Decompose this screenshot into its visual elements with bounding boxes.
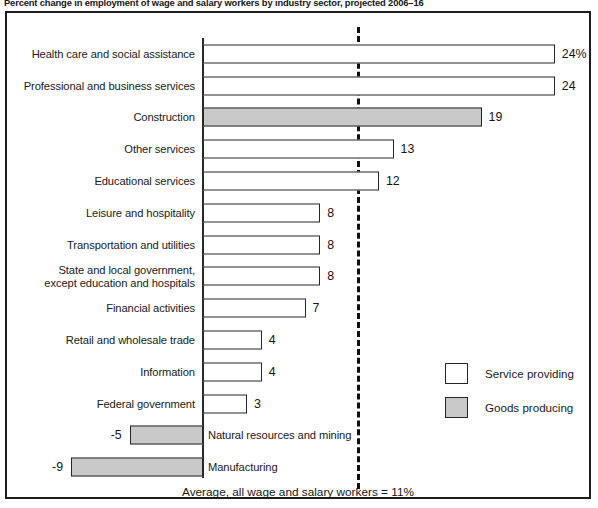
bar-category-label-line: Other services xyxy=(0,143,195,155)
bar-category-label-line: Health care and social assistance xyxy=(0,48,195,60)
chart-legend: Service providing Goods producing xyxy=(445,356,595,424)
legend-swatch-service-providing xyxy=(445,363,468,384)
bar-category-label: Leisure and hospitality xyxy=(0,207,195,219)
bar-category-label: Health care and social assistance xyxy=(0,48,195,60)
bar xyxy=(71,458,203,477)
bar-row: Retail and wholesale trade4 xyxy=(7,324,589,356)
bar-category-label-line: Federal government xyxy=(0,397,195,409)
bar xyxy=(203,108,482,127)
bar xyxy=(203,362,262,381)
bar-category-label: Federal government xyxy=(0,397,195,409)
bar-category-label: Financial activities xyxy=(0,302,195,314)
bar-category-label: Manufacturing xyxy=(208,461,468,473)
bar-category-label-line: Natural resources and mining xyxy=(208,429,468,441)
bar xyxy=(203,44,555,63)
bar-row: Financial activities7 xyxy=(7,292,589,324)
bar-category-label-line: State and local government, xyxy=(0,264,195,276)
bar-category-label-line: Information xyxy=(0,366,195,378)
bar-row: Professional and business services24 xyxy=(7,70,589,102)
plot-area: Health care and social assistance24%Prof… xyxy=(7,13,589,497)
bar-category-label: Natural resources and mining xyxy=(208,429,468,441)
bar-category-label-line: except education and hospitals xyxy=(0,276,195,288)
bar-row: Natural resources and mining-5 xyxy=(7,420,589,452)
bar-row: Transportation and utilities8 xyxy=(7,229,589,261)
bar xyxy=(203,140,394,159)
average-caption: Average, all wage and salary workers = 1… xyxy=(7,485,589,499)
bar-category-label-line: Educational services xyxy=(0,175,195,187)
bar-value-label: 3 xyxy=(254,397,261,411)
legend-swatch-goods-producing xyxy=(445,397,468,418)
bar xyxy=(203,394,247,413)
bar-category-label: Retail and wholesale trade xyxy=(0,334,195,346)
bar xyxy=(203,299,306,318)
bar-value-label: 19 xyxy=(489,110,503,124)
bar-category-label-line: Financial activities xyxy=(0,302,195,314)
chart-title: Percent change in employment of wage and… xyxy=(4,0,594,9)
legend-item-goods-producing: Goods producing xyxy=(445,390,595,424)
chart-frame: Health care and social assistance24%Prof… xyxy=(5,11,591,499)
bar-category-label: Transportation and utilities xyxy=(0,238,195,250)
legend-label-service-providing: Service providing xyxy=(485,367,574,380)
bar-value-label: 4 xyxy=(269,365,276,379)
bar-category-label: Construction xyxy=(0,111,195,123)
bar-category-label-line: Leisure and hospitality xyxy=(0,207,195,219)
bar-category-label-line: Transportation and utilities xyxy=(0,238,195,250)
bar-category-label-line: Professional and business services xyxy=(0,79,195,91)
bar-value-label: 7 xyxy=(313,301,320,315)
bar-row: Educational services12 xyxy=(7,165,589,197)
bar-value-label: -9 xyxy=(33,460,63,474)
bar xyxy=(203,203,320,222)
bar-value-label: 12 xyxy=(386,174,400,188)
bar-row: Other services13 xyxy=(7,133,589,165)
bar xyxy=(203,235,320,254)
bar-value-label: 24 xyxy=(562,79,576,93)
bar-value-label: 4 xyxy=(269,333,276,347)
bar-category-label: Professional and business services xyxy=(0,79,195,91)
bar-row: Manufacturing-9 xyxy=(7,451,589,483)
bar xyxy=(203,172,379,191)
bar-row: Leisure and hospitality8 xyxy=(7,197,589,229)
bar-value-label: 8 xyxy=(327,206,334,220)
bar xyxy=(203,76,555,95)
bar-category-label: Educational services xyxy=(0,175,195,187)
legend-item-service-providing: Service providing xyxy=(445,356,595,390)
bar-category-label: State and local government,except educat… xyxy=(0,264,195,288)
legend-label-goods-producing: Goods producing xyxy=(485,401,573,414)
bar xyxy=(203,267,320,286)
bar-value-label: 8 xyxy=(327,269,334,283)
bar-category-label-line: Retail and wholesale trade xyxy=(0,334,195,346)
bar-value-label: -5 xyxy=(92,428,122,442)
bar-value-label: 8 xyxy=(327,238,334,252)
bar-category-label: Information xyxy=(0,366,195,378)
bar-category-label-line: Manufacturing xyxy=(208,461,468,473)
bar-category-label-line: Construction xyxy=(0,111,195,123)
bar-category-label: Other services xyxy=(0,143,195,155)
bar-row: Health care and social assistance24% xyxy=(7,38,589,70)
bar-row: Construction19 xyxy=(7,102,589,134)
bar-value-label: 13 xyxy=(401,142,415,156)
bar-row: State and local government,except educat… xyxy=(7,261,589,293)
bar xyxy=(203,331,262,350)
bar xyxy=(130,426,203,445)
bar-value-label: 24% xyxy=(562,47,587,61)
